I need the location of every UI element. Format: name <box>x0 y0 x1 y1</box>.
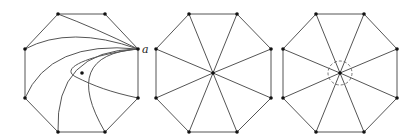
vertex-dot <box>56 130 60 134</box>
vertex-dot <box>136 96 140 100</box>
vertex-dot <box>154 47 158 51</box>
vertex-dot <box>395 96 399 100</box>
vertex-dot <box>103 12 107 16</box>
vertex-dot <box>269 47 273 51</box>
curve-from-a <box>58 14 138 49</box>
vertex-dot <box>154 96 158 100</box>
vertex-dot <box>281 96 285 100</box>
vertex-dot <box>269 96 273 100</box>
vertex-dot <box>103 130 107 134</box>
curve-from-a <box>25 37 138 49</box>
curve-from-a <box>89 49 138 132</box>
vertex-dot <box>23 47 27 51</box>
interior-point <box>80 71 84 75</box>
vertex-dot <box>395 47 399 51</box>
vertex-dot <box>56 12 60 16</box>
left-octagon-panel <box>23 12 140 134</box>
vertex-dot <box>136 47 140 51</box>
vertex-dot <box>281 47 285 51</box>
figure: a <box>0 0 420 140</box>
vertex-dot <box>23 96 27 100</box>
vertex-dot <box>314 130 318 134</box>
vertex-dot <box>187 130 191 134</box>
vertex-dot <box>235 12 239 16</box>
center-point <box>338 71 342 75</box>
vertex-label-a: a <box>142 43 149 56</box>
vertex-dot <box>362 130 366 134</box>
vertex-dot <box>362 12 366 16</box>
middle-octagon-panel <box>154 12 273 134</box>
vertex-dot <box>314 12 318 16</box>
right-octagon-panel <box>281 12 399 134</box>
vertex-dot <box>187 12 191 16</box>
center-point <box>211 71 215 75</box>
vertex-dot <box>235 130 239 134</box>
